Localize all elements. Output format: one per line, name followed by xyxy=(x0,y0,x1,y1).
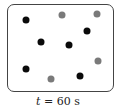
black-particle xyxy=(23,17,30,24)
black-particle xyxy=(77,73,84,80)
black-particle xyxy=(38,39,45,46)
gray-particle xyxy=(59,12,66,19)
time-caption: t = 60 s xyxy=(0,95,116,108)
gray-particle xyxy=(95,58,102,65)
black-particle xyxy=(66,42,73,49)
gray-particle xyxy=(94,11,101,18)
time-value: = 60 s xyxy=(41,95,80,108)
gray-particle xyxy=(48,76,55,83)
black-particle xyxy=(84,28,91,35)
black-particle xyxy=(23,66,30,73)
